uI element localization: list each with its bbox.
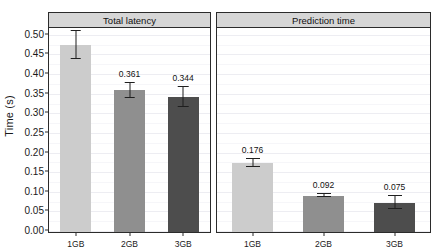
x-axis-tick-mark [394, 233, 395, 236]
gridline-major [217, 113, 430, 114]
error-bar-cap-upper [388, 195, 402, 196]
panel-prediction-time-strip: Prediction time [217, 13, 430, 28]
error-bar-cap-upper [71, 30, 82, 31]
y-axis-tick-label: 0.40 [25, 68, 44, 79]
plot-area-prediction-time: 0.1760.0920.075 [217, 28, 430, 232]
y-axis-tick-label: 0.30 [25, 107, 44, 118]
x-axis-tick-mark [129, 233, 130, 236]
panel-total-latency-title: Total latency [103, 15, 156, 26]
x-axis-tick-label: 1GB [244, 239, 261, 249]
y-axis-tick-label: 0.50 [25, 28, 44, 39]
bar-value-label: 0.092 [313, 180, 334, 190]
error-bar-cap-upper [178, 86, 189, 87]
y-axis-tick-label: 0.45 [25, 48, 44, 59]
y-axis-tick-label: 0.15 [25, 166, 44, 177]
x-axis-tick-label: 3GB [175, 239, 192, 249]
gridline-major [217, 74, 430, 75]
bar [303, 196, 344, 232]
error-bar-cap-lower [388, 208, 402, 209]
y-axis-tick-label: 0.25 [25, 126, 44, 137]
bar-value-label: 0.075 [384, 182, 405, 192]
bar [232, 163, 273, 232]
x-axis-tick-mark [183, 233, 184, 236]
error-bar [129, 83, 130, 99]
x-axis-tick-label: 3GB [386, 239, 403, 249]
gridline-major [217, 54, 430, 55]
gridline-minor [217, 45, 430, 46]
bar-value-label: 0.361 [119, 69, 140, 79]
error-bar-cap-upper [124, 82, 135, 83]
panel-prediction-time-title: Prediction time [292, 15, 355, 26]
error-bar-cap-lower [124, 97, 135, 98]
gridline-minor [217, 84, 430, 85]
gridline-minor [217, 123, 430, 124]
error-bar-cap-lower [71, 58, 82, 59]
bar-chart-figure: Time (s) 0.000.050.100.150.200.250.300.3… [0, 0, 438, 251]
x-axis-tick-mark [252, 233, 253, 236]
panel-total-latency-strip: Total latency [49, 13, 210, 28]
error-bar-cap-lower [246, 166, 260, 167]
plot-area-total-latency: 0.4760.3610.344 [49, 28, 210, 232]
gridline-major [217, 133, 430, 134]
y-axis-tick-label: 0.20 [25, 146, 44, 157]
bar-value-label: 0.344 [173, 73, 194, 83]
x-axis-tick-mark [323, 233, 324, 236]
error-bar-cap-upper [246, 158, 260, 159]
y-axis: 0.000.050.100.150.200.250.300.350.400.45… [18, 26, 48, 233]
panel-prediction-time: Prediction time 0.1760.0920.075 [216, 12, 431, 233]
error-bar [75, 31, 76, 59]
bar [168, 97, 199, 232]
gridline-minor [217, 143, 430, 144]
y-axis-title-text: Time (s) [3, 95, 15, 137]
gridline-major [217, 35, 430, 36]
y-axis-tick-label: 0.35 [25, 87, 44, 98]
bar [114, 90, 145, 232]
gridline-minor [217, 64, 430, 65]
gridline-major [49, 35, 210, 36]
error-bar [183, 87, 184, 107]
panel-total-latency: Total latency 0.4760.3610.344 [48, 12, 211, 233]
x-axis-total-latency: 1GB2GB3GB [48, 233, 211, 251]
error-bar-cap-upper [317, 193, 331, 194]
y-axis-tick-label: 0.05 [25, 205, 44, 216]
bar [60, 45, 91, 232]
gridline-minor [217, 104, 430, 105]
x-axis-tick-label: 2GB [121, 239, 138, 249]
y-axis-tick-label: 0.10 [25, 185, 44, 196]
error-bar-cap-lower [178, 106, 189, 107]
y-axis-title: Time (s) [0, 0, 18, 232]
gridline-major [217, 94, 430, 95]
x-axis-tick-mark [75, 233, 76, 236]
x-axis-tick-label: 1GB [67, 239, 84, 249]
error-bar-cap-lower [317, 196, 331, 197]
y-axis-tick-label: 0.00 [25, 225, 44, 236]
x-axis-prediction-time: 1GB2GB3GB [216, 233, 431, 251]
bar-value-label: 0.176 [242, 145, 263, 155]
x-axis-tick-label: 2GB [315, 239, 332, 249]
